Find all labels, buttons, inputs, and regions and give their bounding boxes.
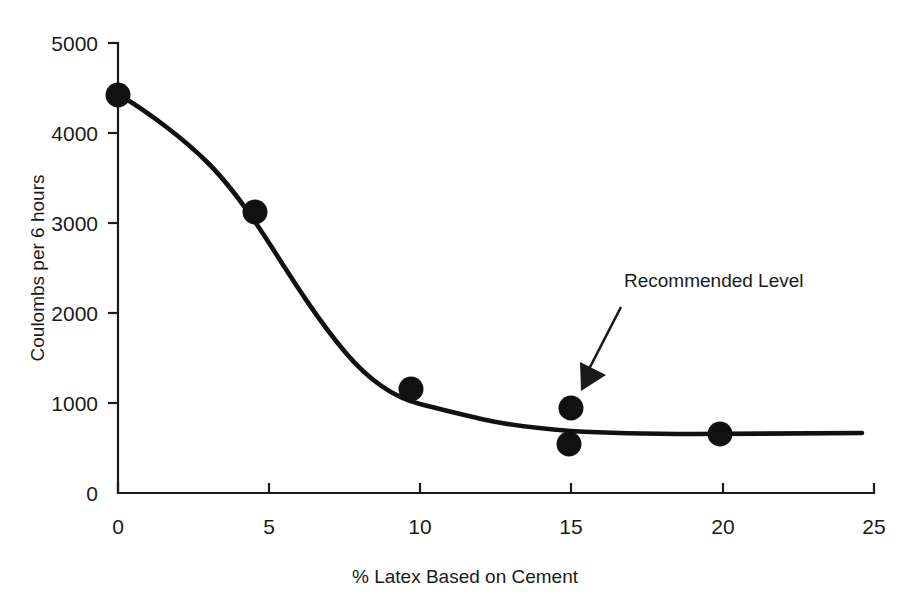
x-tick-label-25: 25	[862, 515, 885, 538]
recommended-level-label: Recommended Level	[624, 270, 804, 291]
chart-page: 5000 4000 3000 2000 1000 0 0 5 10 15 20 …	[0, 0, 912, 612]
x-tick-label-10: 10	[408, 515, 431, 538]
data-point-4	[708, 422, 733, 447]
recommended-level-annotation: Recommended Level	[580, 270, 804, 391]
axes-group	[118, 43, 874, 493]
data-point-1	[243, 200, 268, 225]
data-point-2	[399, 377, 424, 402]
x-tick-label-5: 5	[263, 515, 275, 538]
y-tick-label-5000: 5000	[51, 32, 98, 55]
y-tick-label-2000: 2000	[51, 302, 98, 325]
y-tick-label-0: 0	[86, 482, 98, 505]
x-tick-marks	[118, 483, 874, 493]
y-tick-label-1000: 1000	[51, 392, 98, 415]
annotation-arrow-head-icon	[580, 362, 606, 391]
x-tick-label-0: 0	[112, 515, 124, 538]
y-tick-label-4000: 4000	[51, 122, 98, 145]
x-tick-labels: 0 5 10 15 20 25	[112, 515, 886, 538]
chloride-permeability-chart: 5000 4000 3000 2000 1000 0 0 5 10 15 20 …	[0, 0, 912, 612]
annotation-arrow-line	[589, 307, 621, 369]
y-tick-label-3000: 3000	[51, 212, 98, 235]
data-point-0	[106, 83, 131, 108]
y-tick-labels: 5000 4000 3000 2000 1000 0	[51, 32, 98, 505]
data-point-3b	[557, 432, 582, 457]
trend-curve	[118, 94, 862, 434]
y-axis-title: Coulombs per 6 hours	[27, 175, 48, 362]
x-tick-label-20: 20	[711, 515, 734, 538]
data-point-3a	[559, 396, 584, 421]
x-axis-title: % Latex Based on Cement	[352, 566, 579, 587]
x-tick-label-15: 15	[559, 515, 582, 538]
